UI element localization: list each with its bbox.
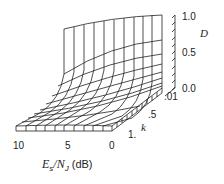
k-tick-0-01: .01 bbox=[164, 92, 178, 102]
x-tick-0: 0 bbox=[109, 141, 115, 151]
x-title-unit: (dB) bbox=[69, 158, 93, 170]
z-axis-title: D bbox=[200, 28, 208, 38]
k-axis-title: k bbox=[141, 122, 146, 132]
z-tick-0-5: 0.5 bbox=[182, 48, 196, 58]
k-tick-0-5: .5 bbox=[148, 110, 156, 120]
z-tick-0-0: 0.0 bbox=[182, 84, 196, 94]
x-axis-title: Es/NJ (dB) bbox=[42, 159, 93, 174]
k-tick-1: 1. bbox=[128, 130, 136, 140]
x-title-sep: /N bbox=[53, 157, 64, 171]
z-tick-1-0: 1.0 bbox=[182, 12, 196, 22]
x-tick-10: 10 bbox=[13, 141, 24, 151]
surface-top-edge bbox=[64, 15, 162, 29]
x-tick-5: 5 bbox=[65, 141, 71, 151]
surface-left-edge bbox=[16, 29, 64, 126]
